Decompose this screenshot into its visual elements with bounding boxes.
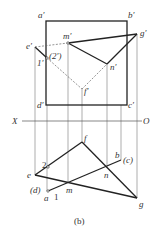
label-g: g (139, 199, 144, 209)
label-c: (c) (123, 155, 133, 165)
triangle-front-view (35, 34, 137, 89)
label-1-prime: 1′ (37, 58, 45, 68)
label-e: e (27, 170, 31, 180)
label-n-prime: n′ (110, 62, 118, 72)
label-n: n (104, 170, 109, 180)
label-2-prime: (2′) (49, 51, 61, 61)
label-2: 2 (42, 160, 47, 170)
label-m: m (66, 185, 73, 195)
label-a: a (44, 193, 49, 203)
axis-x-label: X (11, 116, 18, 126)
label-g-prime: g′ (140, 28, 148, 38)
label-f: f (84, 133, 88, 143)
label-e-prime: e′ (26, 41, 33, 51)
label-b-prime: b′ (128, 10, 136, 20)
label-m-prime: m′ (63, 31, 72, 41)
label-f-prime: f′ (84, 86, 90, 96)
label-d: (d) (30, 185, 41, 195)
figure-caption: (b) (74, 216, 85, 226)
axis-o-label: O (143, 116, 150, 126)
label-c-prime: c′ (128, 100, 135, 110)
label-d-prime: d′ (37, 100, 45, 110)
label-b: b (115, 150, 120, 160)
descriptive-geometry-drawing: X O a′ b′ c′ d′ e′ f′ g′ m′ n′ 1′ (2′) f… (0, 0, 159, 236)
label-a-prime: a′ (38, 10, 46, 20)
label-1: 1 (54, 192, 59, 202)
